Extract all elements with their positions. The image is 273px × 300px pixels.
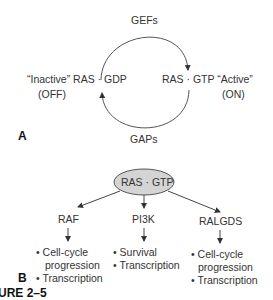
figure-caption: URE 2–5 <box>0 287 47 299</box>
effector-pi3k: PI3K <box>132 213 155 225</box>
arrow-hub-raf <box>78 191 120 207</box>
gaps-label: GAPs <box>130 133 157 145</box>
panel-b-label: B <box>18 272 27 284</box>
panel-a-label: A <box>18 130 27 142</box>
effector-ralgds: RALGDS <box>199 215 242 227</box>
pi3k-outcome-1: • Survival <box>113 246 157 258</box>
hub-label: RAS · GTP <box>121 176 174 188</box>
gap-arc <box>102 90 189 128</box>
active-state-label: RAS · GTP “Active” <box>162 73 253 85</box>
effector-raf: RAF <box>58 213 79 225</box>
raf-outcome-3: • Transcription <box>36 272 103 284</box>
on-status-label: (ON) <box>222 88 245 100</box>
ralgds-outcome-2: progression <box>198 261 253 273</box>
gefs-label: GEFs <box>131 14 158 26</box>
off-status-label: (OFF) <box>38 88 66 100</box>
ralgds-outcome-1: • Cell-cycle <box>191 248 243 260</box>
pi3k-outcome-2: • Transcription <box>113 259 180 271</box>
raf-outcome-1: • Cell-cycle <box>36 246 88 258</box>
inactive-state-label: “Inactive” RAS · GDP <box>27 73 127 85</box>
raf-outcome-2: progression <box>45 259 100 271</box>
arrow-hub-ralgds <box>168 191 220 212</box>
ralgds-outcome-3: • Transcription <box>191 274 258 286</box>
